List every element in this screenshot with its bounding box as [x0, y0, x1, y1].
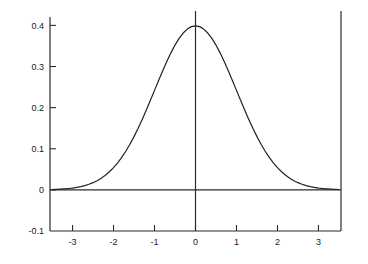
- x-tick-label: -3: [69, 237, 77, 247]
- y-tick-label: 0.4: [31, 21, 44, 31]
- y-tick-label: 0: [39, 185, 44, 195]
- x-tick-label: 2: [275, 237, 280, 247]
- y-tick-label: 0.3: [31, 62, 44, 72]
- x-tick-label: -2: [110, 237, 118, 247]
- x-tick-label: -1: [151, 237, 159, 247]
- x-tick-label: 3: [316, 237, 321, 247]
- y-tick-label: -0.1: [28, 226, 44, 236]
- plot-canvas: -0.100.10.20.30.4-3-2-10123: [0, 0, 368, 264]
- y-tick-label: 0.2: [31, 103, 44, 113]
- x-tick-label: 0: [193, 237, 198, 247]
- x-tick-label: 1: [234, 237, 239, 247]
- y-tick-label: 0.1: [31, 144, 44, 154]
- normal-distribution-chart: -0.100.10.20.30.4-3-2-10123: [0, 0, 368, 264]
